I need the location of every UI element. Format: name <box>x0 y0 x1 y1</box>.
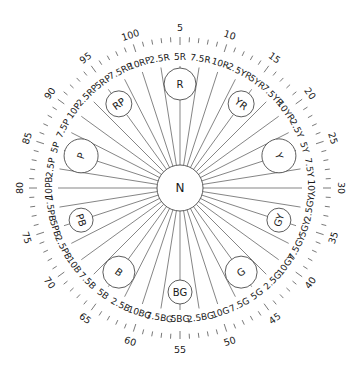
hue-number-label: 85 <box>20 131 34 146</box>
tick-mark <box>142 42 143 47</box>
tick-mark <box>48 258 52 260</box>
tick-mark <box>207 40 208 45</box>
hue-number-label: 5 <box>177 22 183 33</box>
hue-label: 10PB <box>44 176 54 199</box>
tick-mark <box>224 324 226 332</box>
tick-mark <box>116 320 118 325</box>
tick-mark <box>64 281 68 284</box>
hue-number-label: 25 <box>326 131 340 146</box>
hue-spoke <box>128 207 166 260</box>
tick-mark <box>116 51 118 56</box>
hue-label: 7.5R <box>190 52 212 65</box>
tick-mark <box>53 266 57 269</box>
tick-mark <box>161 333 162 338</box>
tick-mark <box>264 66 269 72</box>
tick-mark <box>273 300 276 304</box>
hue-number-label: 70 <box>42 275 58 291</box>
tick-mark <box>323 215 328 216</box>
tick-mark <box>296 272 302 277</box>
tick-mark <box>224 44 226 52</box>
tick-mark <box>325 169 330 170</box>
tick-mark <box>296 99 302 104</box>
tick-mark <box>152 331 153 336</box>
tick-mark <box>40 132 45 134</box>
tick-mark <box>43 124 48 126</box>
hue-number-label: 60 <box>123 334 138 348</box>
hue-number-label: 10 <box>222 28 237 42</box>
tick-mark <box>316 232 324 234</box>
hue-label: 5B <box>95 286 111 301</box>
hue-number-label: 55 <box>174 344 186 355</box>
tick-mark <box>30 206 35 207</box>
tick-mark <box>280 78 283 82</box>
hue-number-label: 40 <box>302 275 318 291</box>
hue-number-label: 100 <box>120 27 141 43</box>
hue-spoke <box>93 195 159 216</box>
tick-mark <box>264 304 269 310</box>
tick-mark <box>308 258 312 260</box>
hue-label: 5P <box>49 140 62 154</box>
tick-mark <box>142 329 143 334</box>
tick-mark <box>58 99 64 104</box>
tick-mark <box>234 48 236 53</box>
hue-label: 2.5BG <box>186 310 215 324</box>
tick-mark <box>198 38 199 43</box>
tick-mark <box>308 115 312 117</box>
hue-label: 10RP <box>127 55 153 72</box>
hue-label: 10Y <box>306 180 316 197</box>
tick-mark <box>161 38 162 43</box>
hue-label: 2.5B <box>109 296 132 314</box>
hue-label: 7.5P <box>54 117 72 140</box>
hue-spoke <box>60 192 158 207</box>
tick-mark <box>133 44 135 52</box>
tick-mark <box>99 61 102 65</box>
tick-mark <box>70 85 74 88</box>
tick-mark <box>53 107 57 110</box>
tick-mark <box>124 48 126 53</box>
tick-mark <box>292 281 296 284</box>
hue-label: 7.5Y <box>303 157 316 179</box>
hue-number-label: 30 <box>336 182 347 194</box>
tick-mark <box>70 288 74 291</box>
hue-number-label: 95 <box>77 50 93 66</box>
hue-number-label: 35 <box>326 230 340 245</box>
tick-mark <box>258 311 261 315</box>
hue-number-label: 50 <box>222 334 237 348</box>
tick-mark <box>286 288 290 291</box>
tick-mark <box>99 311 102 315</box>
hue-number-label: 45 <box>267 310 283 326</box>
tick-mark <box>77 78 80 82</box>
hue-label: 5G <box>249 286 265 302</box>
tick-mark <box>323 160 328 161</box>
tick-mark <box>316 242 321 244</box>
hue-spoke <box>290 224 296 226</box>
tick-mark <box>34 150 39 151</box>
hue-spoke <box>202 195 268 216</box>
hue-label: 2.5PB <box>53 234 74 262</box>
hue-label: 2.5R <box>149 52 171 65</box>
hue-spoke <box>190 79 235 167</box>
tick-mark <box>258 61 261 65</box>
tick-mark <box>198 333 199 338</box>
tick-mark <box>32 215 37 216</box>
hue-number-label: 15 <box>267 50 283 66</box>
tick-mark <box>216 42 217 47</box>
tick-mark <box>124 324 126 329</box>
tick-mark <box>250 56 252 60</box>
tick-mark <box>32 160 37 161</box>
hue-spoke <box>108 89 111 93</box>
tick-mark <box>30 169 35 170</box>
tick-mark <box>207 331 208 336</box>
tick-mark <box>312 250 317 252</box>
tick-mark <box>273 72 276 76</box>
hue-circle-label: R <box>177 79 184 90</box>
hue-spoke <box>194 207 232 260</box>
tick-mark <box>48 115 52 117</box>
tick-mark <box>58 272 64 277</box>
tick-mark <box>64 92 68 95</box>
neutral-label: N <box>176 181 185 195</box>
tick-mark <box>312 124 317 126</box>
tick-mark <box>43 250 48 252</box>
tick-mark <box>40 242 45 244</box>
tick-mark <box>36 141 44 143</box>
